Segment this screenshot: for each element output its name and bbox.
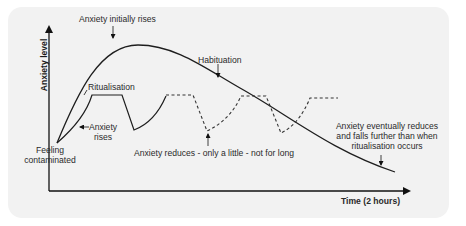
initial-rise-label: Anxiety initially rises (79, 14, 156, 24)
feeling-contaminated-label: Feeling contaminated (23, 145, 77, 165)
eventually-reduces-label: Anxiety eventually reduces and falls fur… (326, 121, 448, 151)
ritualisation-pointer (84, 90, 87, 95)
habituation-label: Habituation (198, 55, 241, 65)
eventually-line3: ritualisation occurs (326, 141, 448, 151)
eventually-line1: Anxiety eventually reduces (326, 121, 448, 131)
x-axis-label: Time (2 hours) (341, 196, 400, 206)
y-axis-label: Anxiety level (39, 35, 49, 95)
anxiety-rises-line1: Anxiety (86, 122, 120, 132)
feeling-line2: contaminated (23, 155, 77, 165)
reduces-little-label: Anxiety reduces - only a little - not fo… (134, 148, 294, 158)
anxiety-rises-line2: rises (86, 132, 120, 142)
ritualisation-label: Ritualisation (88, 82, 135, 92)
eventually-line2: and falls further than when (326, 131, 448, 141)
anxiety-rises-label: Anxiety rises (86, 122, 120, 142)
anxiety-diagram (0, 0, 466, 226)
feeling-line1: Feeling (23, 145, 77, 155)
ritualisation-curve-dashed (166, 95, 338, 133)
